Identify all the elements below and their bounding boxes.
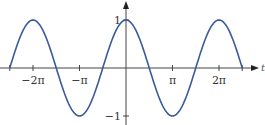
cosine-plot: t −2π−ππ2π 1−1 xyxy=(0,0,265,125)
x-axis-label: t xyxy=(261,62,265,73)
x-tick-label: −π xyxy=(71,74,87,87)
y-tick-label: −1 xyxy=(105,110,121,123)
y-axis-arrow-icon xyxy=(123,1,129,9)
x-tick-label: −2π xyxy=(21,74,44,87)
x-tick-label: 2π xyxy=(212,74,226,87)
x-tick-label: π xyxy=(169,74,176,87)
x-axis-arrow-icon xyxy=(251,65,259,71)
